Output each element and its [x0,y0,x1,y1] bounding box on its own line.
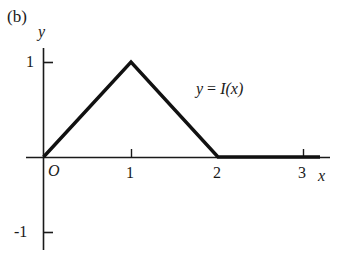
x-tick-label-2: 2 [213,165,221,181]
curve-annotation: y = I(x) [196,81,243,97]
x-axis-label: x [318,168,325,184]
curve-annotation-operator: = [203,80,220,97]
figure-panel-b: (b) y x 1 -1 O 1 2 3 y = I(x) [0,0,337,257]
y-tick-label-1: 1 [26,54,34,70]
y-tick-label-minus-1: -1 [14,224,27,240]
y-axis-label: y [38,24,45,40]
curve-y-equals-I-of-x [44,62,321,157]
x-tick-label-3: 3 [298,165,306,181]
curve-annotation-rhs: I(x) [220,80,243,97]
origin-label: O [48,163,60,179]
plot-canvas [0,0,337,257]
x-tick-label-1: 1 [126,165,134,181]
